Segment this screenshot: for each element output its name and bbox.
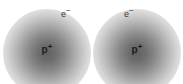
proton-charge-left: + xyxy=(48,42,53,51)
electron-label-right: e− xyxy=(124,10,134,19)
electron-cloud-diagram: p+ p+ e− e− xyxy=(0,0,183,84)
electron-charge-right: − xyxy=(129,6,134,15)
proton-label-right: p+ xyxy=(123,45,151,55)
electron-charge-left: − xyxy=(66,6,71,15)
proton-label-left: p+ xyxy=(33,45,61,55)
proton-charge-right: + xyxy=(138,42,143,51)
electron-label-left: e− xyxy=(61,10,71,19)
